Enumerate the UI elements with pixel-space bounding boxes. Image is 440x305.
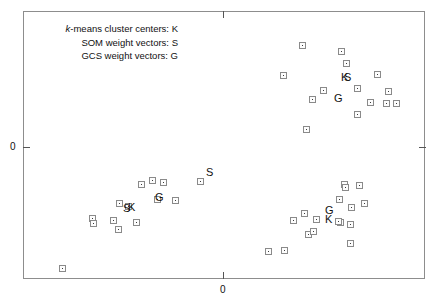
data-point-marker [59,265,66,272]
data-point-marker [348,204,355,211]
data-point-marker [115,226,122,233]
data-point-marker [342,184,349,191]
legend-item-som: SOM weight vectors: S [30,36,178,50]
data-point-marker [343,60,350,67]
x-axis-tick-label-0: 0 [220,285,226,295]
annotation-label-s: S [206,167,213,178]
data-point-marker [385,88,392,95]
data-point-marker [309,96,316,103]
data-point-marker [356,182,363,189]
annotation-label-k: K [325,214,332,225]
data-point-marker [172,197,179,204]
data-point-marker [354,111,361,118]
data-point-marker [149,177,156,184]
legend-kmeans-text: -means cluster centers: K [70,23,178,34]
data-point-marker [335,218,342,225]
data-point-marker [383,100,390,107]
data-point-marker [138,181,145,188]
data-point-marker [320,87,327,94]
y-axis-tick-0-right [419,147,426,148]
data-point-marker [367,99,374,106]
data-point-marker [310,228,317,235]
y-axis-tick-0-left [23,147,30,148]
legend-som-text: SOM weight vectors: S [81,37,178,48]
data-point-marker [265,248,272,255]
annotation-label-g: G [334,93,343,104]
data-point-marker [301,210,308,217]
data-point-marker [347,240,354,247]
legend-item-kmeans: k-means cluster centers: K [30,22,178,36]
data-point-marker [313,216,320,223]
annotation-label-s: S [344,72,351,83]
data-point-marker [338,48,345,55]
annotation-label-g: G [155,192,164,203]
annotation-label-k: K [128,202,135,213]
scatter-plot-figure: KSGSGSKGK k-means cluster centers: K SOM… [0,0,440,305]
data-point-marker [336,196,343,203]
data-point-marker [280,72,287,79]
data-point-marker [354,85,361,92]
x-axis-tick-0-top [223,11,224,18]
data-point-marker [197,178,204,185]
data-point-marker [361,200,368,207]
legend-gcs-text: GCS weight vectors: G [81,50,178,61]
data-point-marker [299,42,306,49]
data-point-marker [303,126,310,133]
data-point-marker [374,71,381,78]
legend: k-means cluster centers: K SOM weight ve… [30,22,178,63]
data-point-marker [110,217,117,224]
data-point-marker [160,179,167,186]
data-point-marker [281,247,288,254]
data-point-marker [393,100,400,107]
data-point-marker [116,200,123,207]
data-point-marker [347,221,354,228]
legend-item-gcs: GCS weight vectors: G [30,49,178,63]
data-point-marker [290,217,297,224]
x-axis-tick-0-bottom [223,272,224,279]
data-point-marker [133,219,140,226]
data-point-marker [90,220,97,227]
y-axis-tick-label-0: 0 [10,142,16,152]
